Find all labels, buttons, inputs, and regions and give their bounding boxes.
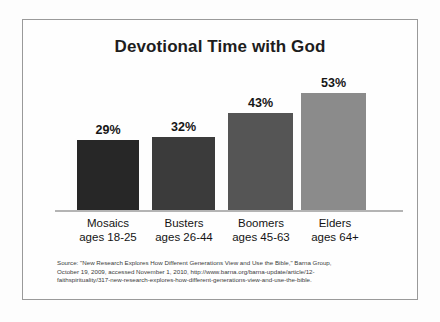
bar-value-boomers: 43% (248, 96, 273, 110)
scanned-page: Devotional Time with God 29% 32% 43% 53% (0, 0, 440, 322)
bar-group-mosaics: 29% (77, 140, 139, 210)
bar-busters[interactable] (152, 137, 215, 210)
source-line-1: Source: "New Research Explores How Diffe… (57, 259, 399, 268)
bar-value-mosaics: 29% (95, 123, 120, 137)
category-label-elders: Elders ages 64+ (293, 217, 377, 244)
axis-baseline (55, 210, 403, 212)
bar-value-busters: 32% (171, 120, 196, 134)
bar-value-elders: 53% (321, 76, 346, 90)
source-line-2: October 19, 2009, accessed November 1, 2… (57, 268, 399, 277)
bar-group-elders: 53% (301, 93, 366, 210)
bar-group-busters: 32% (152, 137, 215, 210)
bar-boomers[interactable] (228, 113, 293, 210)
figure-frame: Devotional Time with God 29% 32% 43% 53% (22, 19, 418, 300)
bar-elders[interactable] (301, 93, 366, 210)
bar-mosaics[interactable] (77, 140, 139, 210)
category-ages-elders: ages 64+ (293, 231, 377, 245)
source-line-3: faithspirituality/317-new-research-explo… (57, 276, 399, 285)
bar-group-boomers: 43% (228, 113, 293, 210)
source-citation: Source: "New Research Explores How Diffe… (57, 259, 399, 285)
category-name-elders: Elders (293, 217, 377, 231)
